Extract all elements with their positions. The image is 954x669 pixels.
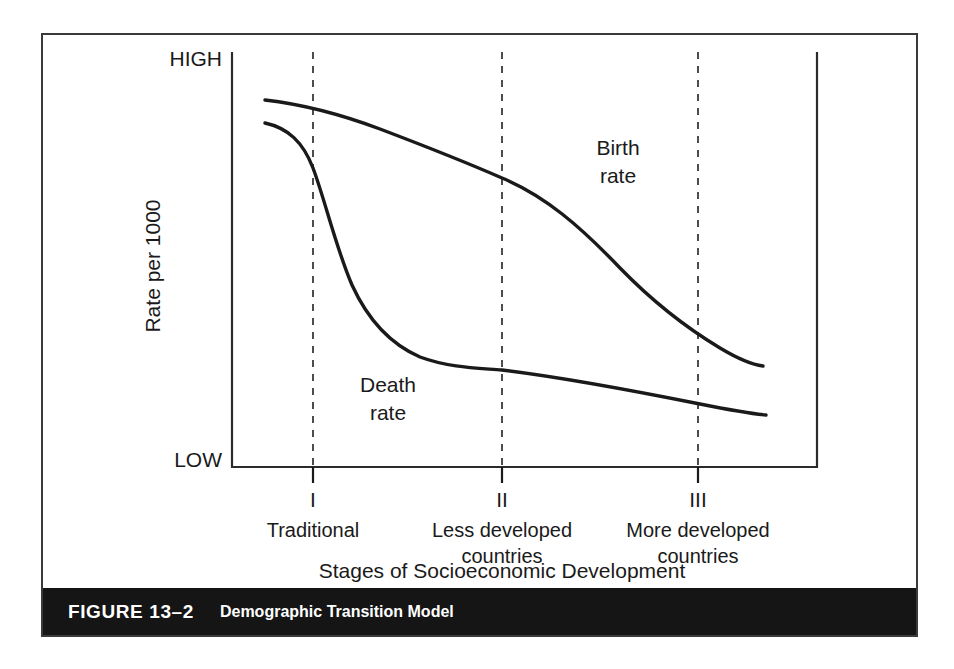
stage-label-iii-line1: More developed [626, 519, 769, 541]
death-rate-label-line1: Death [360, 373, 416, 396]
stage-numeral-ii: II [496, 488, 508, 511]
birth-rate-curve [265, 100, 763, 366]
stage-label-i-line1: Traditional [267, 519, 360, 541]
stage-numeral-i: I [310, 488, 316, 511]
x-axis-title: Stages of Socioeconomic Development [319, 559, 686, 582]
figure-number: FIGURE 13–2 [68, 601, 194, 623]
y-axis-high-label: HIGH [170, 47, 223, 70]
birth-rate-label-line2: rate [600, 164, 636, 187]
plot-frame [232, 52, 817, 467]
stage-numeral-iii: III [689, 488, 707, 511]
y-axis-low-label: LOW [174, 448, 222, 471]
figure-caption-bar: FIGURE 13–2 Demographic Transition Model [43, 588, 916, 635]
figure-container: HIGH LOW Rate per 1000 Birth rate Death … [0, 0, 954, 669]
y-axis-title: Rate per 1000 [141, 199, 164, 332]
demographic-transition-chart: HIGH LOW Rate per 1000 Birth rate Death … [0, 0, 954, 669]
stage-label-ii-line1: Less developed [432, 519, 572, 541]
stage-tick-marks [313, 467, 698, 483]
death-rate-curve [265, 123, 766, 415]
figure-title: Demographic Transition Model [220, 603, 454, 621]
death-rate-label-line2: rate [370, 401, 406, 424]
birth-rate-label-line1: Birth [596, 136, 639, 159]
